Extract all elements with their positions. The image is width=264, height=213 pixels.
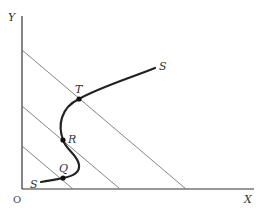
y-axis-label: Y	[8, 11, 17, 24]
point-r	[60, 137, 65, 142]
diagram: Y X O S S T R Q	[0, 0, 264, 213]
curve-end-label: S	[159, 60, 167, 73]
x-axis-label: X	[243, 193, 253, 206]
point-t	[76, 96, 81, 101]
origin-label: O	[13, 194, 21, 205]
point-q	[60, 175, 65, 180]
point-r-label: R	[67, 133, 76, 146]
curve-start-label: S	[30, 178, 38, 191]
point-q-label: Q	[59, 162, 68, 175]
point-t-label: T	[75, 83, 84, 96]
